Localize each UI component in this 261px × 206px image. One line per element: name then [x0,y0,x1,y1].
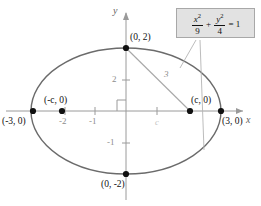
y-axis-label: y [113,6,117,16]
label-left-focus: (-c, 0) [44,96,67,106]
y-term-numerator: y2 [214,13,225,24]
x-tick-label-minus1: -1 [89,117,97,126]
x-term-numerator: x2 [192,13,203,24]
x-term-denominator: 9 [193,27,202,36]
ellipse-equation: x2 9 + y2 4 = 1 [177,9,256,39]
plus-operator: + [206,19,211,29]
right-angle-marker [117,100,126,111]
x-tick-label-minus2: -2 [59,117,67,126]
equation-callout-box: x2 9 + y2 4 = 1 [176,8,255,38]
y-term-fraction: y2 4 [214,13,225,36]
point-bottom-vertex [123,171,129,177]
label-right-focus: (c, 0) [191,96,211,106]
point-left-vertex [30,108,36,114]
x-tick-label-c: c [155,118,159,127]
x-axis-label: x [246,115,250,125]
label-right-vertex: (3, 0) [222,117,243,127]
label-segment-length: 3 [164,70,169,79]
radius-segment [126,48,190,111]
x-axis [6,108,243,114]
equals-one: = 1 [228,19,240,29]
y-tick-label-2: 2 [112,75,117,84]
y-tick-label-minus1: -1 [107,138,115,147]
y-term-denominator: 4 [216,27,225,36]
label-left-vertex: (-3, 0) [2,117,26,127]
point-left-focus [59,108,65,114]
point-right-focus [187,108,193,114]
label-bottom-vertex: (0, -2) [101,180,125,190]
point-right-vertex [218,108,224,114]
point-top-vertex [123,45,129,51]
label-top-vertex: (0, 2) [130,33,151,43]
x-term-fraction: x2 9 [192,13,203,36]
